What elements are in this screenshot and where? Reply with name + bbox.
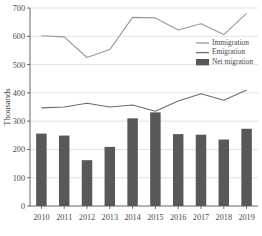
migration-chart: 0100200300400500600700Thousands201020112… bbox=[0, 0, 262, 236]
bar-2013 bbox=[105, 147, 115, 206]
x-tick-label: 2018 bbox=[216, 213, 232, 222]
y-tick-label: 400 bbox=[13, 89, 25, 98]
x-tick-label: 2011 bbox=[56, 213, 72, 222]
legend-label-net-migration: Net migration bbox=[212, 57, 254, 66]
y-tick-label: 0 bbox=[21, 202, 25, 211]
bar-2011 bbox=[59, 136, 69, 206]
y-axis-title: Thousands bbox=[2, 88, 12, 126]
bar-2018 bbox=[219, 140, 229, 206]
bar-2017 bbox=[196, 135, 206, 206]
line-emigration bbox=[41, 90, 246, 111]
x-tick-label: 2014 bbox=[124, 213, 140, 222]
y-tick-label: 200 bbox=[13, 145, 25, 154]
x-tick-label: 2015 bbox=[147, 213, 163, 222]
legend-swatch-net-migration bbox=[196, 59, 209, 65]
bar-2015 bbox=[150, 112, 160, 206]
bar-2014 bbox=[127, 118, 137, 206]
y-tick-label: 100 bbox=[13, 174, 25, 183]
legend-label-emigration: Emigration bbox=[212, 47, 246, 56]
y-tick-label: 300 bbox=[13, 117, 25, 126]
legend-label-immigration: Immigration bbox=[212, 38, 249, 47]
y-tick-label: 500 bbox=[13, 61, 25, 70]
chart-plot-area: 0100200300400500600700Thousands201020112… bbox=[0, 0, 262, 236]
x-tick-label: 2019 bbox=[238, 213, 254, 222]
y-tick-label: 600 bbox=[13, 32, 25, 41]
x-tick-label: 2016 bbox=[170, 213, 186, 222]
x-tick-label: 2010 bbox=[33, 213, 49, 222]
bar-2019 bbox=[241, 129, 251, 206]
x-tick-label: 2017 bbox=[193, 213, 209, 222]
y-tick-label: 700 bbox=[13, 4, 25, 13]
bar-2010 bbox=[36, 134, 46, 206]
x-tick-label: 2013 bbox=[102, 213, 118, 222]
x-tick-label: 2012 bbox=[79, 213, 95, 222]
bar-2016 bbox=[173, 134, 183, 206]
bar-2012 bbox=[82, 160, 92, 206]
